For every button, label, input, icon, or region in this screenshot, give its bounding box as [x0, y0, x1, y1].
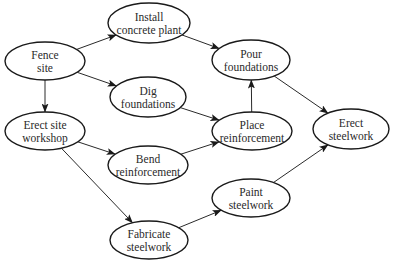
node-label: steelwork	[127, 241, 172, 253]
node-label: Bend	[136, 153, 161, 165]
node-label: foundations	[224, 61, 279, 73]
node-label: Place	[240, 119, 265, 131]
edge-pour-foundations-to-erect-steelwork	[274, 76, 328, 113]
node-fabricate-steelwork: Fabricatesteelwork	[110, 221, 188, 259]
node-erect-steelwork: Erectsteelwork	[313, 109, 389, 149]
node-label: Fence	[31, 49, 58, 61]
node-fence-site: Fencesite	[5, 42, 85, 80]
node-place-reinforcement: Placereinforcement	[212, 112, 292, 150]
node-install-concrete-plant: Installconcrete plant	[108, 3, 190, 43]
node-label: site	[37, 62, 53, 74]
node-paint-steelwork: Paintsteelwork	[212, 179, 290, 217]
edge-erect-site-workshop-to-bend-reinforcement	[78, 142, 115, 154]
activity-network-diagram: FencesiteInstallconcrete plantDigfoundat…	[0, 0, 393, 265]
node-pour-foundations: Pourfoundations	[212, 40, 290, 80]
node-label: foundations	[121, 98, 176, 110]
edge-fence-site-to-dig-foundations	[77, 72, 116, 86]
node-label: workshop	[22, 132, 68, 145]
edge-paint-steelwork-to-erect-steelwork	[274, 145, 329, 183]
node-label: Dig	[139, 85, 157, 98]
edge-dig-foundations-to-place-reinforcement	[180, 108, 219, 121]
node-bend-reinforcement: Bendreinforcement	[108, 146, 188, 184]
edge-fabricate-steelwork-to-paint-steelwork	[179, 210, 221, 227]
node-label: steelwork	[229, 199, 274, 211]
node-dig-foundations: Digfoundations	[110, 77, 186, 117]
node-erect-site-workshop: Erect siteworkshop	[5, 112, 85, 150]
edge-bend-reinforcement-to-place-reinforcement	[181, 142, 219, 154]
node-label: Fabricate	[128, 228, 171, 240]
edge-install-concrete-plant-to-pour-foundations	[182, 35, 219, 49]
node-label: concrete plant	[117, 24, 183, 37]
node-label: reinforcement	[220, 132, 285, 144]
edge-fence-site-to-install-concrete-plant	[77, 35, 117, 49]
node-label: Erect	[339, 117, 364, 129]
node-label: Erect site	[23, 119, 66, 131]
node-label: steelwork	[329, 130, 374, 142]
node-label: reinforcement	[116, 166, 181, 178]
node-label: Pour	[240, 48, 262, 60]
node-label: Install	[135, 11, 164, 23]
node-label: Paint	[239, 186, 263, 198]
